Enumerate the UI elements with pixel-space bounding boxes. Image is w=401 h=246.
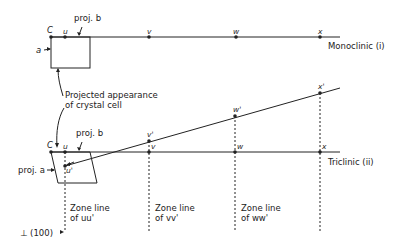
- zone-vv-line1: Zone line: [155, 203, 195, 213]
- point-w-prime: w': [233, 105, 241, 115]
- point-w-tri: w: [237, 142, 243, 152]
- annotation-line1: Projected appearance: [65, 90, 158, 100]
- zone-uu-line1: Zone line: [70, 203, 110, 213]
- point-v-tri: v: [151, 142, 155, 152]
- triclinic-label: Triclinic (ii): [328, 157, 374, 167]
- proj-a-label: proj. a: [18, 165, 45, 175]
- annotation-line2: of crystal cell: [65, 100, 122, 110]
- perp-100-label: ⊥ (100): [20, 228, 53, 238]
- a-label: a: [36, 45, 41, 55]
- point-v-prime: v': [147, 130, 154, 140]
- annotation-arrow-down: [57, 108, 64, 146]
- zone-vv-line2: of vv': [155, 213, 178, 223]
- arrowhead: [56, 68, 60, 72]
- monoclinic-label: Monoclinic (i): [328, 41, 385, 51]
- arrowhead: [47, 47, 51, 51]
- proj-b-label-tri: proj. b: [76, 128, 103, 138]
- diagram-canvas: [0, 0, 401, 246]
- zone-uu-line2: of uu': [70, 213, 94, 223]
- monoclinic-cell: [51, 37, 90, 68]
- triclinic-cell: [51, 152, 97, 183]
- point-x-mono: x: [318, 27, 322, 37]
- point-x-prime: x': [318, 82, 325, 92]
- proj-b-label-mono: proj. b: [74, 13, 101, 23]
- arrowhead: [60, 230, 64, 234]
- point-w-mono: w: [233, 27, 239, 37]
- point-u-mono: u: [63, 27, 68, 37]
- point-v-mono: v: [147, 27, 151, 37]
- point-u-tri: u: [63, 142, 68, 152]
- arrowhead: [55, 143, 59, 148]
- point-C-mono: C: [47, 25, 53, 35]
- zone-ww-line1: Zone line: [241, 203, 281, 213]
- point-C-tri: C: [47, 140, 53, 150]
- point-u-prime: u': [66, 166, 73, 176]
- annotation-arrow-up: [58, 69, 63, 96]
- zone-ww-line2: of ww': [241, 213, 268, 223]
- point-x-tri: x: [322, 142, 326, 152]
